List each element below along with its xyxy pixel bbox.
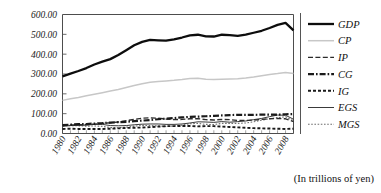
unit-caption: (In trillions of yen) [294, 173, 375, 185]
legend-label-ip: IP [337, 52, 348, 63]
legend-label-egs: EGS [337, 102, 358, 113]
y-tick-label: 100.00 [31, 109, 57, 119]
y-tick-label: 300.00 [30, 69, 57, 79]
y-tick-label: 600.00 [31, 10, 57, 20]
legend-label-cg: CG [338, 69, 353, 80]
y-tick-label: 0.00 [40, 129, 57, 139]
chart-screenshot-root: 0.00100.00200.00300.00400.00500.00600.00… [0, 0, 381, 193]
chart-background [0, 0, 381, 193]
legend-label-mgs: MGS [337, 119, 360, 130]
y-tick-label: 200.00 [31, 89, 57, 99]
legend-label-cp: CP [338, 35, 352, 46]
legend-label-gdp: GDP [338, 19, 360, 30]
y-tick-label: 500.00 [31, 30, 57, 40]
legend-label-ig: IG [337, 86, 349, 97]
y-tick-label: 400.00 [31, 50, 57, 60]
chart-svg: 0.00100.00200.00300.00400.00500.00600.00… [0, 0, 381, 193]
line-chart-figure: 0.00100.00200.00300.00400.00500.00600.00… [0, 0, 381, 193]
